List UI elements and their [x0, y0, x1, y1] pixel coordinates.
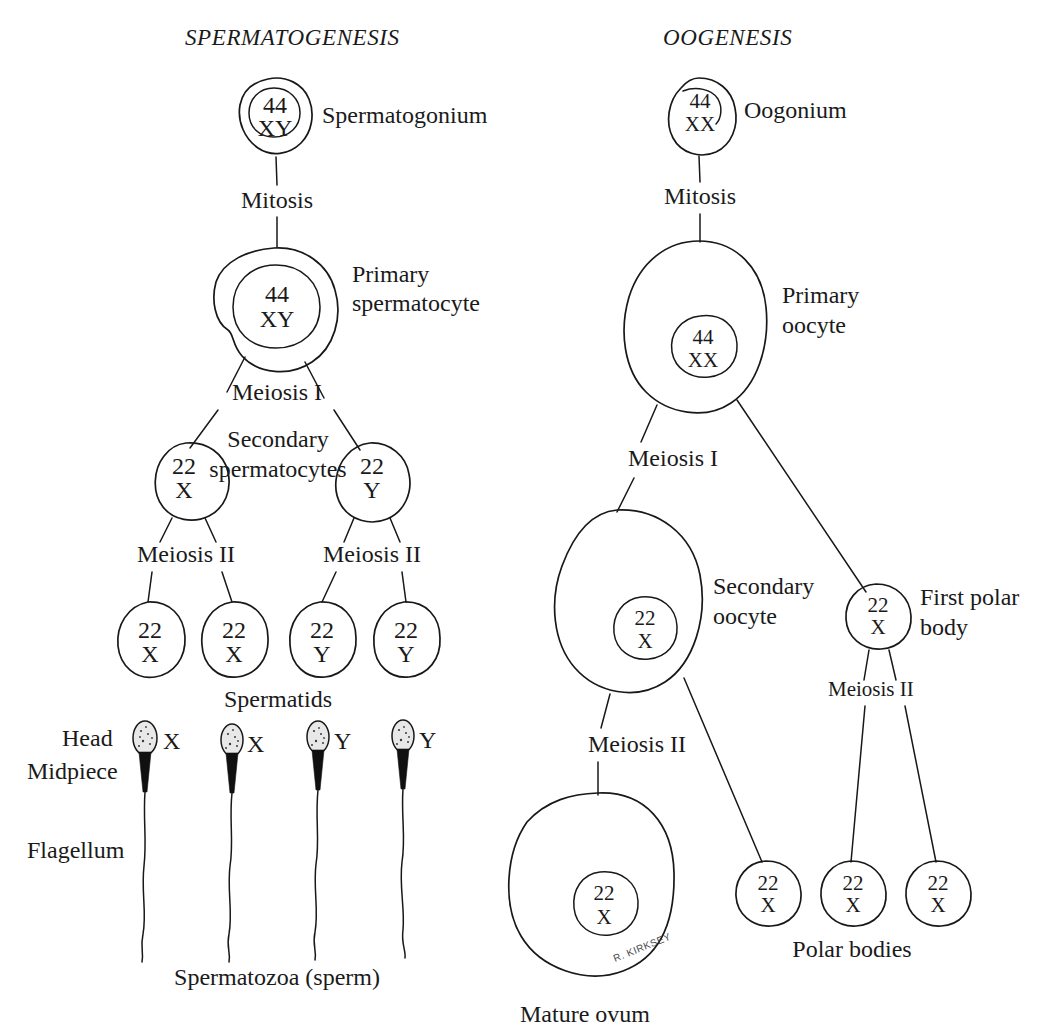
spermatid-4: 22 Y — [374, 602, 440, 677]
spermatozoon-4: Y — [392, 720, 436, 958]
secondary-oocyte-label-line2: oocyte — [713, 603, 777, 629]
spermatozoon-4-sex-chromosome: Y — [419, 727, 436, 753]
spermatid-1: 22 X — [118, 602, 185, 677]
spermatozoon-1-flagellum — [142, 792, 145, 962]
secondary-spermatocytes-label-line2: spermatocytes — [209, 456, 346, 482]
sperm-flagellum-label: Flagellum — [27, 837, 125, 863]
first-polar-body-label-line2: body — [920, 614, 968, 640]
connector-meiosis2-to-polar-body-3 — [905, 706, 936, 862]
primary-oocyte-chromosome-count: 44 — [693, 325, 715, 349]
polar-body-1-sex-chromosomes: X — [760, 893, 775, 917]
connector-meiosis1-to-secondary-right — [334, 410, 360, 450]
polar-body-2: 22 X — [821, 861, 886, 926]
first-polar-body-chromosome-count: 22 — [868, 593, 889, 617]
oogonium-label: Oogonium — [744, 97, 847, 123]
polar-bodies-label: Polar bodies — [792, 936, 911, 962]
spermatozoon-3-head — [307, 721, 329, 753]
spermatid-3-chromosome-count: 22 — [310, 617, 334, 643]
spermatogonium-label: Spermatogonium — [322, 102, 488, 128]
primary-spermatocyte-label-line2: spermatocyte — [352, 290, 480, 316]
connector-primary-oocyte-left — [641, 405, 657, 442]
oogenesis-title: OOGENESIS — [663, 25, 792, 50]
meiosis-one-label-left: Meiosis I — [232, 379, 322, 405]
spermatozoon-1: X — [133, 721, 180, 962]
spermatogonium-cell: 44 XY — [239, 78, 312, 154]
connector-meiosis1-to-secondary-oocyte — [617, 478, 634, 512]
connector-sec-y-right — [390, 518, 400, 542]
spermatid-4-sex-chromosomes: Y — [397, 641, 414, 667]
mature-ovum-chromosome-count: 22 — [594, 881, 615, 905]
meiosis-two-label-left-pair: Meiosis II — [137, 541, 235, 567]
spermatozoon-4-midpiece — [397, 749, 409, 789]
first-polar-body-label-line1: First polar — [920, 584, 1019, 610]
spermatogonium-sex-chromosomes: XY — [258, 115, 293, 141]
meiosis-two-label-polar-bodies: Meiosis II — [828, 677, 914, 701]
connector-sec-x-right — [205, 518, 216, 542]
secondary-spermatocyte-x-chromosome-count: 22 — [172, 453, 196, 479]
spermatozoon-1-head — [133, 721, 157, 755]
spermatids-label: Spermatids — [224, 686, 332, 712]
polar-body-2-sex-chromosomes: X — [845, 893, 860, 917]
secondary-spermatocyte-y: 22 Y — [336, 443, 410, 522]
secondary-spermatocyte-x-sex-chromosomes: X — [175, 477, 192, 503]
secondary-oocyte-chromosome-count: 22 — [635, 606, 656, 630]
connector-spermatogonium-mitosis — [276, 157, 277, 185]
connector-sec-y-left — [344, 518, 354, 542]
mature-ovum-label: Mature ovum — [520, 1001, 650, 1027]
spermatid-3: 22 Y — [290, 602, 356, 677]
spermatid-4-chromosome-count: 22 — [394, 617, 418, 643]
first-polar-body-sex-chromosomes: X — [870, 615, 885, 639]
connector-sec-x-left — [160, 518, 172, 542]
spermatozoon-4-head — [392, 720, 414, 752]
spermatozoon-2-midpiece — [226, 753, 238, 793]
primary-spermatocyte-chromosome-count: 44 — [265, 281, 289, 307]
gametogenesis-diagram: SPERMATOGENESIS OOGENESIS 44 XY Spermato… — [0, 0, 1050, 1034]
spermatid-1-chromosome-count: 22 — [138, 617, 162, 643]
spermatid-3-sex-chromosomes: Y — [313, 641, 330, 667]
primary-spermatocyte-cell: 44 XY — [214, 248, 338, 372]
connector-meiosis2-to-spermatid-1 — [148, 572, 152, 602]
mitosis-label-right: Mitosis — [664, 183, 736, 209]
oogonium-sex-chromosomes: XX — [685, 112, 715, 136]
first-polar-body-cell: 22 X — [846, 584, 911, 649]
connector-secondary-oocyte-to-polar-body — [684, 678, 762, 862]
connector-primary-oocyte-to-first-polar-body — [737, 400, 866, 592]
spermatozoon-2-sex-chromosome: X — [247, 731, 264, 757]
polar-body-1: 22 X — [736, 861, 801, 926]
spermatid-2-sex-chromosomes: X — [225, 641, 242, 667]
spermatozoon-3-sex-chromosome: Y — [334, 728, 351, 754]
connector-oogonium-mitosis — [699, 156, 700, 182]
spermatozoon-1-sex-chromosome: X — [163, 728, 180, 754]
mature-ovum-sex-chromosomes: X — [596, 905, 611, 929]
spermatozoa-label: Spermatozoa (sperm) — [174, 964, 380, 990]
secondary-oocyte-cell: 22 X — [555, 510, 703, 693]
primary-spermatocyte-sex-chromosomes: XY — [260, 306, 295, 332]
spermatid-1-sex-chromosomes: X — [141, 641, 158, 667]
spermatozoon-2-flagellum — [228, 793, 232, 962]
secondary-spermatocyte-y-chromosome-count: 22 — [360, 453, 384, 479]
spermatozoon-3-midpiece — [312, 750, 324, 790]
spermatozoon-3: Y — [307, 721, 351, 960]
connector-meiosis2-to-spermatid-4 — [402, 572, 406, 602]
spermatid-2: 22 X — [202, 602, 268, 677]
sperm-midpiece-label: Midpiece — [27, 758, 118, 784]
secondary-oocyte-label-line1: Secondary — [713, 573, 814, 599]
connector-meiosis2-to-spermatid-2 — [222, 572, 232, 602]
polar-body-3-sex-chromosomes: X — [930, 893, 945, 917]
connector-first-polar-body-left — [864, 650, 869, 680]
spermatozoon-2: X — [221, 724, 264, 962]
polar-body-2-chromosome-count: 22 — [843, 871, 864, 895]
connector-meiosis2-to-spermatid-3 — [322, 572, 336, 602]
meiosis-two-label-ovum: Meiosis II — [588, 731, 686, 757]
primary-oocyte-sex-chromosomes: XX — [688, 348, 718, 372]
spermatid-2-chromosome-count: 22 — [222, 617, 246, 643]
connector-meiosis2-to-polar-body-2 — [851, 706, 865, 862]
spermatogenesis-title: SPERMATOGENESIS — [185, 25, 400, 50]
polar-body-3-chromosome-count: 22 — [928, 871, 949, 895]
oogonium-cell: 44 XX — [669, 78, 736, 155]
meiosis-one-label-right: Meiosis I — [628, 445, 718, 471]
sperm-head-label: Head — [62, 725, 113, 751]
spermatozoon-4-flagellum — [401, 789, 405, 958]
polar-body-1-chromosome-count: 22 — [758, 871, 779, 895]
spermatozoon-2-head — [221, 724, 243, 756]
